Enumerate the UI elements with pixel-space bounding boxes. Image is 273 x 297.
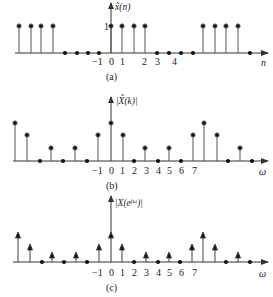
tick-label: 0 (109, 267, 114, 278)
stems (13, 121, 254, 163)
tick-label: 4 (156, 267, 161, 278)
tick-label: 5 (167, 267, 172, 278)
panel-a-labels: x̃(n) 1 −1 0 1 2 3 4 n (a) (92, 2, 266, 83)
tick-label: 7 (192, 267, 197, 278)
tick-label: 0 (109, 56, 114, 67)
tick-label: −1 (92, 267, 103, 278)
y-axis-label: x̃(n) (114, 2, 130, 13)
y-axis-label: |X̃(k)| (116, 94, 138, 107)
caption: (c) (106, 282, 117, 294)
x-axis-label: n (261, 57, 266, 68)
x-axis-label: ω (259, 166, 266, 177)
tick-label: 2 (132, 165, 137, 176)
tick-label: 6 (179, 267, 184, 278)
tick-label: 2 (132, 267, 137, 278)
tick-label: −1 (92, 165, 103, 176)
tick-label: 6 (179, 165, 184, 176)
tick-label: 1 (120, 165, 125, 176)
panel-b-labels: |X̃(k)| −1 0 1 2 3 4 5 6 7 ω (b) (92, 94, 266, 192)
tick-label: 3 (144, 165, 149, 176)
tick-label: 2 (142, 56, 147, 67)
tick-label: 4 (156, 165, 161, 176)
impulses (16, 232, 241, 262)
tick-label: 3 (144, 267, 149, 278)
x-axis-label: ω (259, 268, 266, 279)
caption: (b) (106, 180, 118, 192)
tick-label: 0 (109, 165, 114, 176)
tick-label: 5 (167, 165, 172, 176)
figure-canvas: x̃(n) 1 −1 0 1 2 3 4 n (a) (0, 0, 273, 297)
caption: (a) (106, 71, 117, 83)
level-label: 1 (104, 21, 109, 32)
tick-label: 7 (192, 165, 197, 176)
tick-label: 1 (120, 267, 125, 278)
panel-c-labels: |X(ejω)| −1 0 1 2 3 4 5 6 7 ω (c) (92, 197, 266, 295)
panel-b (13, 97, 268, 163)
tick-label: −1 (92, 56, 103, 67)
tick-label: 3 (155, 56, 160, 67)
stems-high (17, 24, 240, 53)
panel-a (15, 3, 268, 55)
tick-label: 1 (120, 56, 125, 67)
tick-label: 4 (172, 56, 177, 67)
y-axis-label: |X(ejω)| (115, 197, 143, 210)
